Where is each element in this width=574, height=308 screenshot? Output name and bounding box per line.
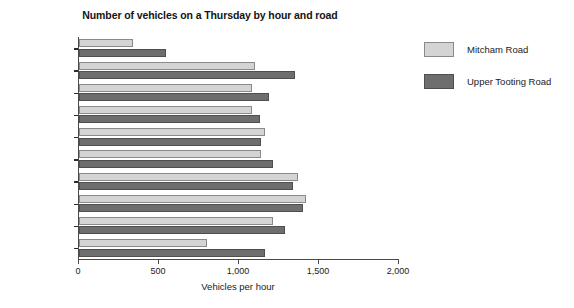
bar-mitcham-road [79,173,298,181]
bar-upper-tooting-road [79,182,293,190]
bar-mitcham-road [79,106,252,114]
x-axis-tick [398,259,399,264]
bar-mitcham-road [79,217,273,225]
bar-group [79,128,398,146]
y-axis-tick [74,137,78,139]
plot-area: 05001,0001,5002,000 Vehicles per hour [78,37,398,259]
bar-upper-tooting-road [79,249,265,257]
bar-mitcham-road [79,62,255,70]
legend-swatch-icon-upper-tooting-road [424,74,454,89]
y-axis-tick [74,93,78,95]
y-axis-tick [74,115,78,117]
legend-label-upper-tooting-road: Upper Tooting Road [467,76,551,87]
bar-mitcham-road [79,195,306,203]
x-axis-tick-label: 0 [75,266,80,276]
legend-label-mitcham-road: Mitcham Road [467,44,528,55]
y-axis-tick [74,181,78,183]
bar-upper-tooting-road [79,160,273,168]
bar-group [79,62,398,80]
bar-upper-tooting-road [79,71,295,79]
y-axis-tick [74,248,78,250]
bar-group [79,239,398,257]
legend-item-mitcham-road: Mitcham Road [424,42,528,57]
legend-item-upper-tooting-road: Upper Tooting Road [424,74,551,89]
x-axis-tick [158,259,159,264]
legend-swatch-icon-mitcham-road [424,42,454,57]
bar-mitcham-road [79,39,133,47]
bar-upper-tooting-road [79,115,260,123]
x-axis-tick-label: 500 [150,266,165,276]
bar-group [79,84,398,102]
bar-mitcham-road [79,128,265,136]
bar-chart: Number of vehicles on a Thursday by hour… [0,0,574,308]
bar-group [79,39,398,57]
bar-group [79,195,398,213]
bar-mitcham-road [79,84,252,92]
y-axis-tick [74,226,78,228]
x-axis-tick-label: 2,000 [387,266,410,276]
x-axis-tick [238,259,239,264]
bar-group [79,217,398,235]
y-axis-tick [74,48,78,50]
x-axis-tick-label: 1,000 [227,266,250,276]
bar-upper-tooting-road [79,204,303,212]
bar-mitcham-road [79,150,261,158]
chart-title: Number of vehicles on a Thursday by hour… [0,9,420,21]
bar-upper-tooting-road [79,49,166,57]
bar-group [79,106,398,124]
y-axis-tick [74,159,78,161]
y-axis-tick [74,204,78,206]
bar-upper-tooting-road [79,226,285,234]
x-axis-title: Vehicles per hour [78,281,398,292]
bar-mitcham-road [79,239,207,247]
bar-upper-tooting-road [79,138,261,146]
y-axis-tick [74,70,78,72]
x-axis-tick-label: 1,500 [307,266,330,276]
bar-group [79,150,398,168]
x-axis-tick [318,259,319,264]
bar-group [79,173,398,191]
x-axis-tick [78,259,79,264]
bar-upper-tooting-road [79,93,269,101]
